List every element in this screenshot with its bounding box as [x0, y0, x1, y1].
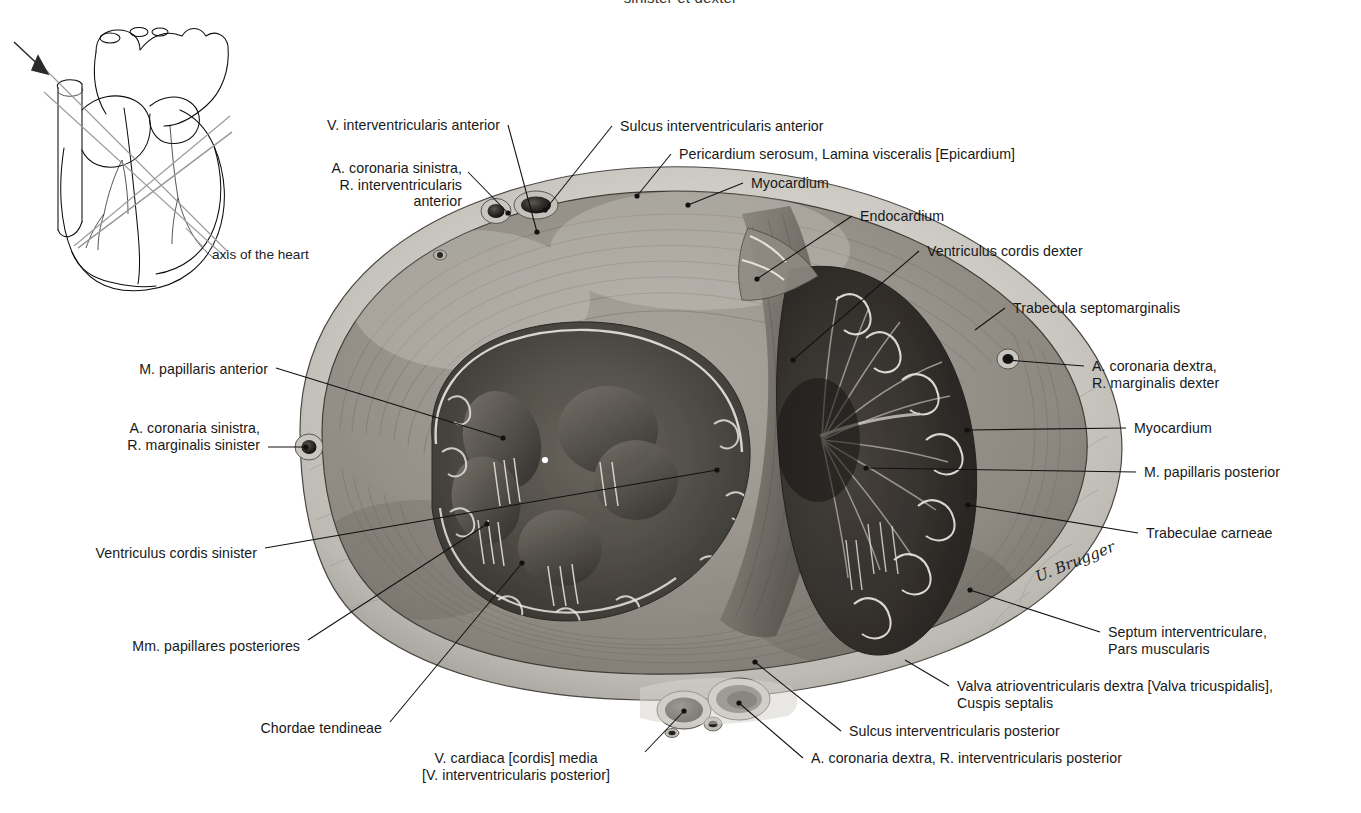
leader-myocardium-right — [967, 428, 1126, 430]
label-line: Valva atrioventricularis dextra [Valva t… — [957, 678, 1273, 695]
leader-m-papillaris-anterior — [276, 368, 503, 438]
label-line: Mm. papillares posteriores — [132, 638, 300, 655]
leader-dot-myocardium-top — [685, 202, 690, 207]
label-line: Pericardium serosum, Lamina visceralis [… — [679, 146, 1015, 163]
label-line: Trabecula septomarginalis — [1013, 300, 1180, 317]
leader-dot-septum-interventriculare — [967, 587, 972, 592]
label-line: V. cardiaca [cordis] media — [422, 750, 610, 767]
label-line: R. interventricularis — [332, 177, 462, 194]
label-line: Myocardium — [751, 175, 829, 192]
label-m-papillaris-anterior: M. papillaris anterior — [139, 361, 268, 378]
label-sulcus-interventricularis-anterior: Sulcus interventricularis anterior — [620, 118, 824, 135]
leader-dot-v-interventricularis-anterior — [534, 229, 539, 234]
leader-dot-endocardium — [754, 276, 759, 281]
leader-ventriculus-cordis-dexter — [793, 251, 919, 360]
viewing-direction-arrow-icon — [14, 42, 48, 74]
leader-dot-a-coronaria-sinistra-r-marginalis-sinister — [303, 444, 308, 449]
leader-trabecula-septomarginalis — [975, 308, 1005, 330]
label-sulcus-interventricularis-posterior: Sulcus interventricularis posterior — [849, 723, 1060, 740]
label-line: M. papillaris anterior — [139, 361, 268, 378]
leader-dot-ventriculus-cordis-sinister — [714, 467, 719, 472]
leader-a-coronaria-sinistra-r-iv-anterior — [468, 172, 508, 213]
label-line: V. interventricularis anterior — [327, 117, 500, 134]
label-line: Cuspis septalis — [957, 695, 1273, 712]
label-line: A. coronaria dextra, — [1092, 358, 1219, 375]
label-line: R. marginalis sinister — [127, 437, 260, 454]
leader-dot-v-cardiaca-media — [681, 708, 686, 713]
label-a-coronaria-sinistra-r-marginalis-sinister: A. coronaria sinistra,R. marginalis sini… — [127, 420, 260, 453]
leader-dot-a-coronaria-dextra-r-marginalis-dexter — [1004, 357, 1009, 362]
label-m-papillaris-posterior: M. papillaris posterior — [1144, 464, 1280, 481]
leader-a-coronaria-dextra-r-iv-posterior — [739, 703, 803, 758]
leader-sulcus-interventricularis-posterior — [755, 662, 841, 731]
label-line: A. coronaria dextra, R. interventricular… — [811, 750, 1122, 767]
leader-dot-sulcus-interventricularis-posterior — [752, 659, 757, 664]
label-pericardium-serosum: Pericardium serosum, Lamina visceralis [… — [679, 146, 1015, 163]
label-line: A. coronaria sinistra, — [332, 160, 462, 177]
label-mm-papillares-posteriores: Mm. papillares posteriores — [132, 638, 300, 655]
leader-dot-a-coronaria-sinistra-r-iv-anterior — [505, 210, 510, 215]
leader-dot-trabeculae-carneae — [965, 502, 970, 507]
label-line: Sulcus interventricularis posterior — [849, 723, 1060, 740]
label-endocardium: Endocardium — [860, 208, 944, 225]
label-trabeculae-carneae: Trabeculae carneae — [1146, 525, 1273, 542]
inset-heart-outline — [57, 28, 228, 291]
label-line: Septum interventriculare, — [1108, 624, 1267, 641]
leader-septum-interventriculare — [970, 590, 1100, 632]
label-septum-interventriculare: Septum interventriculare,Pars muscularis — [1108, 624, 1267, 657]
label-line: Sulcus interventricularis anterior — [620, 118, 824, 135]
leader-dot-myocardium-right — [964, 427, 969, 432]
inset-caption-leader — [186, 228, 204, 248]
label-v-interventricularis-anterior: V. interventricularis anterior — [327, 117, 500, 134]
label-ventriculus-cordis-sinister: Ventriculus cordis sinister — [96, 545, 257, 562]
leader-valva-atrioventricularis-dextra — [905, 660, 949, 686]
label-myocardium-right: Myocardium — [1134, 420, 1212, 437]
label-trabecula-septomarginalis: Trabecula septomarginalis — [1013, 300, 1180, 317]
leader-dot-ventriculus-cordis-dexter — [790, 357, 795, 362]
leader-v-cardiaca-media — [645, 711, 684, 752]
label-line: Pars muscularis — [1108, 641, 1267, 658]
anatomy-plate: sinister et dexter — [0, 0, 1361, 813]
label-line: Myocardium — [1134, 420, 1212, 437]
label-line: anterior — [332, 193, 462, 210]
label-v-cardiaca-media: V. cardiaca [cordis] media[V. interventr… — [422, 750, 610, 783]
label-myocardium-top: Myocardium — [751, 175, 829, 192]
leader-dot-sulcus-interventricularis-anterior — [542, 207, 547, 212]
leader-myocardium-top — [688, 183, 743, 205]
leader-dot-a-coronaria-dextra-r-iv-posterior — [736, 700, 741, 705]
leader-endocardium — [757, 216, 852, 279]
label-line: A. coronaria sinistra, — [127, 420, 260, 437]
leader-dot-pericardium-serosum — [634, 193, 639, 198]
label-line: Trabeculae carneae — [1146, 525, 1273, 542]
leader-chordae-tendineae — [390, 563, 522, 722]
leader-mm-papillares-posteriores — [308, 524, 487, 640]
leader-dot-m-papillaris-posterior — [863, 465, 868, 470]
leader-dot-chordae-tendineae — [519, 560, 524, 565]
leader-dot-m-papillaris-anterior — [500, 435, 505, 440]
label-chordae-tendineae: Chordae tendineae — [260, 720, 382, 737]
label-line: R. marginalis dexter — [1092, 375, 1219, 392]
inset-axis-lines — [36, 60, 232, 256]
leader-sulcus-interventricularis-anterior — [545, 126, 612, 210]
leader-ventriculus-cordis-sinister — [265, 470, 717, 548]
leader-lines — [265, 125, 1138, 758]
leader-a-coronaria-dextra-r-marginalis-dexter — [1007, 360, 1084, 366]
label-line: Ventriculus cordis sinister — [96, 545, 257, 562]
leader-dot-mm-papillares-posteriores — [484, 521, 489, 526]
leader-m-papillaris-posterior — [866, 468, 1136, 472]
leader-v-interventricularis-anterior — [508, 125, 537, 232]
leader-trabeculae-carneae — [968, 505, 1138, 533]
label-line: Endocardium — [860, 208, 944, 225]
inset-caption: axis of the heart — [212, 247, 309, 262]
label-line: M. papillaris posterior — [1144, 464, 1280, 481]
label-line: Chordae tendineae — [260, 720, 382, 737]
label-valva-atrioventricularis-dextra: Valva atrioventricularis dextra [Valva t… — [957, 678, 1273, 711]
label-a-coronaria-dextra-r-iv-posterior: A. coronaria dextra, R. interventricular… — [811, 750, 1122, 767]
label-line: Ventriculus cordis dexter — [927, 243, 1083, 260]
label-line: [V. interventricularis posterior] — [422, 767, 610, 784]
label-ventriculus-cordis-dexter: Ventriculus cordis dexter — [927, 243, 1083, 260]
leader-pericardium-serosum — [637, 154, 671, 196]
label-a-coronaria-dextra-r-marginalis-dexter: A. coronaria dextra,R. marginalis dexter — [1092, 358, 1219, 391]
label-a-coronaria-sinistra-r-iv-anterior: A. coronaria sinistra,R. interventricula… — [332, 160, 462, 210]
